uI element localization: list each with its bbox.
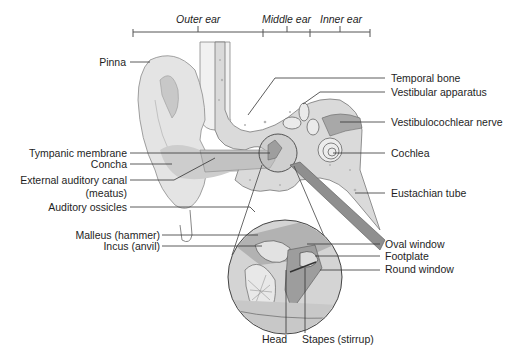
- region-label-inner-ear: Inner ear: [320, 13, 362, 25]
- label-cochlea: Cochlea: [391, 147, 430, 159]
- label-stapes: Stapes (stirrup): [302, 333, 374, 345]
- region-label-outer-ear: Outer ear: [176, 13, 220, 25]
- magnified-inset: [228, 215, 345, 340]
- cochlea-shape: [318, 138, 342, 162]
- label-round-window: Round window: [385, 263, 454, 275]
- label-meatus: (meatus): [86, 187, 127, 199]
- label-eustachian-tube: Eustachian tube: [391, 187, 466, 199]
- label-auditory-ossicles: Auditory ossicles: [48, 201, 127, 213]
- label-external-auditory-canal: External auditory canal: [20, 174, 127, 186]
- label-concha: Concha: [91, 158, 127, 170]
- label-oval-window: Oval window: [385, 238, 445, 250]
- region-bracket: [133, 26, 370, 37]
- label-vestibular-apparatus: Vestibular apparatus: [391, 86, 487, 98]
- label-pinna: Pinna: [99, 56, 126, 68]
- region-label-middle-ear: Middle ear: [262, 13, 311, 25]
- label-vestibulocochlear-nerve: Vestibulocochlear nerve: [391, 116, 503, 128]
- temporal-bone-shape: [215, 42, 380, 230]
- label-incus: Incus (anvil): [103, 240, 160, 252]
- label-footplate: Footplate: [385, 250, 429, 262]
- label-head: Head: [262, 333, 287, 345]
- ear-anatomy-diagram: Outer ear Middle ear Inner ear Pinna Tym…: [0, 0, 515, 352]
- label-temporal-bone: Temporal bone: [391, 72, 460, 84]
